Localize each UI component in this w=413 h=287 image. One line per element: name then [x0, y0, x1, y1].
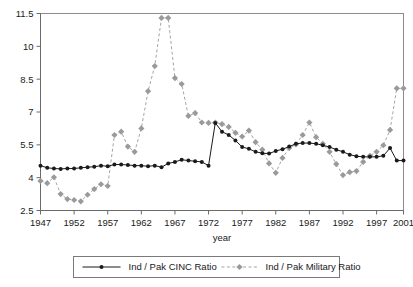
data-point [207, 164, 211, 168]
data-point [118, 129, 124, 135]
data-point [300, 132, 306, 138]
x-tick-label: 1997 [366, 217, 387, 228]
data-point [348, 153, 352, 157]
chart-container: 2.545.578.51011.519471952195719621967197… [0, 0, 413, 287]
data-point [400, 85, 406, 91]
x-tick-label: 1957 [97, 217, 118, 228]
data-point [166, 161, 170, 165]
data-point [374, 149, 380, 155]
data-point [52, 166, 56, 170]
data-point [185, 113, 191, 119]
data-point [58, 191, 64, 197]
legend-label-military: Ind / Pak Military Ratio [266, 261, 361, 272]
data-point [186, 159, 190, 163]
data-point [146, 164, 150, 168]
data-point [138, 125, 144, 131]
data-point [334, 148, 338, 152]
data-point [213, 121, 217, 125]
data-point [192, 110, 198, 116]
data-point [139, 164, 143, 168]
data-point [133, 164, 137, 168]
data-point [112, 163, 116, 167]
data-point [220, 130, 224, 134]
y-axis: 2.545.578.51011.5 [16, 8, 41, 216]
data-point [361, 155, 365, 159]
data-point [59, 167, 63, 171]
data-point [98, 181, 104, 187]
data-point [78, 198, 84, 204]
data-point [44, 180, 50, 186]
data-point [387, 127, 393, 133]
y-tick-label: 11.5 [16, 8, 34, 19]
y-tick-label: 7 [28, 106, 33, 117]
data-point [99, 164, 103, 168]
data-point [193, 159, 197, 163]
data-point [340, 172, 346, 178]
data-point [92, 165, 96, 169]
data-point [307, 141, 311, 145]
data-point [381, 154, 385, 158]
data-point [360, 159, 366, 165]
data-point [105, 183, 111, 189]
data-point [306, 119, 312, 125]
data-point [199, 119, 205, 125]
legend: Ind / Pak CINC RatioInd / Pak Military R… [74, 257, 361, 278]
data-point [205, 120, 211, 126]
data-point [395, 159, 399, 163]
data-point [226, 124, 232, 130]
data-point [145, 88, 151, 94]
legend-marker-cinc [100, 265, 104, 269]
x-tick-label: 1987 [299, 217, 320, 228]
x-tick-label: 1992 [332, 217, 353, 228]
data-point [368, 155, 372, 159]
data-point [65, 166, 69, 170]
data-point [72, 166, 76, 170]
data-point [353, 168, 359, 174]
data-point [273, 170, 279, 176]
data-point [165, 15, 171, 21]
data-point [79, 166, 83, 170]
data-point [314, 142, 318, 146]
x-tick-label: 1967 [164, 217, 185, 228]
y-tick-label: 4 [28, 172, 33, 183]
data-point [354, 154, 358, 158]
x-tick-label: 1962 [131, 217, 152, 228]
x-tick-label: 2001 [393, 217, 413, 228]
data-point [254, 150, 258, 154]
data-point [375, 155, 379, 159]
data-point [37, 178, 43, 184]
data-point [119, 163, 123, 167]
data-point [328, 145, 332, 149]
data-point [45, 166, 49, 170]
data-point [274, 149, 278, 153]
series-cinc-ratio [39, 121, 406, 171]
y-tick-label: 10 [23, 41, 34, 52]
data-point [260, 151, 264, 155]
data-point [247, 147, 251, 151]
data-point [158, 15, 164, 21]
data-point [341, 150, 345, 154]
data-point [333, 161, 339, 167]
data-point [301, 141, 305, 145]
y-tick-label: 8.5 [20, 74, 33, 85]
data-point [279, 155, 285, 161]
data-point [152, 63, 158, 69]
data-point [240, 145, 244, 149]
data-point [266, 160, 272, 166]
legend-label-cinc: Ind / Pak CINC Ratio [129, 261, 217, 272]
data-point [219, 121, 225, 127]
data-point [394, 85, 400, 91]
x-tick-label: 1972 [198, 217, 219, 228]
data-point [388, 146, 392, 150]
data-point [153, 164, 157, 168]
data-point [227, 133, 231, 137]
x-tick-label: 1947 [30, 217, 51, 228]
data-point [84, 192, 90, 198]
x-axis: 1947195219571962196719721977198219871992… [30, 211, 413, 228]
y-tick-label: 2.5 [20, 205, 33, 216]
x-axis-title: year [213, 232, 231, 243]
data-point [39, 164, 43, 168]
data-point [71, 197, 77, 203]
data-point [126, 163, 130, 167]
data-point [294, 142, 298, 146]
